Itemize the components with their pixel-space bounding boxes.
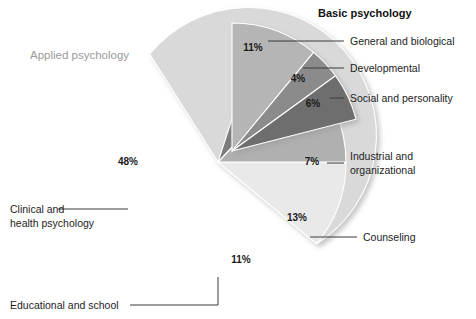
label-clinical-and-health-psychology-line2: health psychology [10,217,95,229]
pct-developmental: 4% [291,73,306,84]
pct-general-and-biological: 11% [243,42,263,53]
pct-counseling: 13% [287,212,307,223]
label-industrial-and-organizational-line1: Industrial and [350,150,413,162]
pct-industrial-and-organizational: 7% [305,156,320,167]
leader-line-educational-and-school [130,277,218,305]
label-developmental: Developmental [350,62,420,74]
pie-chart-figure: 11% 4% 6% 7% 13% 11% 48% Basic psycholog… [0,0,476,319]
label-counseling: Counseling [363,231,416,243]
label-educational-and-school: Educational and school [10,299,119,311]
basic-psychology-heading: Basic psychology [318,7,412,19]
pct-clinical-and-health-psychology: 48% [118,156,138,167]
label-industrial-and-organizational-line2: organizational [350,164,415,176]
pct-educational-and-school: 11% [231,254,251,265]
label-general-and-biological: General and biological [350,35,455,47]
pct-social-and-personality: 6% [306,98,321,109]
label-clinical-and-health-psychology-line1: Clinical and [10,203,64,215]
label-social-and-personality: Social and personality [350,92,453,104]
pie-chart-svg: 11% 4% 6% 7% 13% 11% 48% Basic psycholog… [0,0,476,319]
applied-psychology-heading: Applied psychology [30,49,129,61]
